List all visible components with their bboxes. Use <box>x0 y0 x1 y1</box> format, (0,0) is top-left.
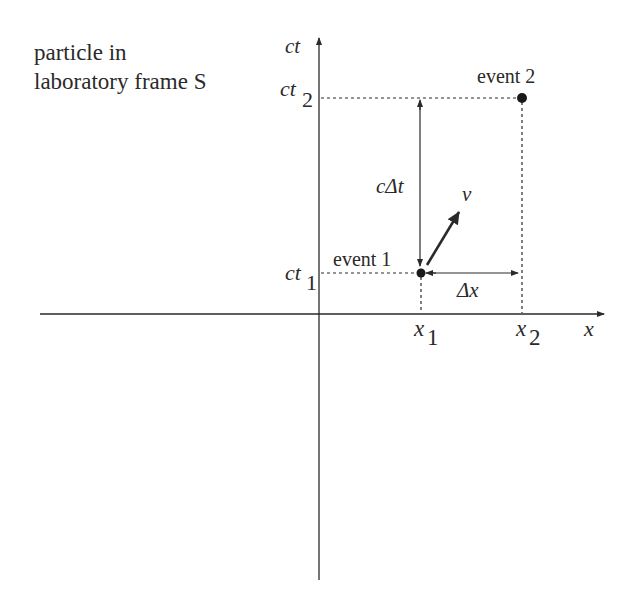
ct1-label: ct <box>285 260 302 285</box>
title-line-1: particle in <box>34 40 127 65</box>
ct-axis-label: ct <box>285 34 301 58</box>
x-axis-label: x <box>583 316 594 341</box>
x2-subscript: 2 <box>529 325 541 350</box>
title-line-2: laboratory frame S <box>34 69 206 94</box>
c-delta-t-label: cΔt <box>376 174 405 198</box>
event-2-dot <box>517 93 527 103</box>
ct2-label: ct <box>280 76 297 101</box>
x1-label: x <box>413 316 425 341</box>
x2-label: x <box>515 316 527 341</box>
velocity-arrow <box>427 212 459 265</box>
x1-subscript: 1 <box>427 325 439 350</box>
event-1-dot <box>417 269 426 278</box>
spacetime-diagram: particle in laboratory frame S ct x ct 2… <box>0 0 631 610</box>
event-2-label: event 2 <box>477 65 535 87</box>
event-1-label: event 1 <box>333 248 391 270</box>
ct1-subscript: 1 <box>306 270 317 295</box>
delta-x-label: Δx <box>456 278 479 302</box>
ct2-subscript: 2 <box>302 87 313 112</box>
velocity-label: v <box>462 182 472 206</box>
